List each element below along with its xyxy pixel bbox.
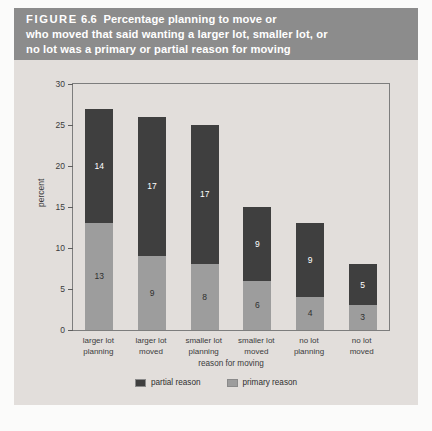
y-axis-tick-label: 20 [56, 161, 65, 171]
bar-value-label: 3 [360, 313, 365, 322]
bar-segment-primary-reason[interactable]: 9 [138, 256, 166, 330]
legend-swatch [135, 379, 146, 387]
figure-title-line-3: no lot was a primary or partial reason f… [26, 42, 408, 57]
figure-label: FIGURE [26, 13, 78, 25]
bar-segment-partial-reason[interactable]: 14 [85, 109, 113, 224]
bar-value-label: 6 [255, 301, 260, 310]
bar-value-label: 17 [147, 182, 156, 191]
plot-inner: 0510152025301413179178969453 [73, 84, 389, 330]
x-axis-category-line: moved [325, 347, 399, 358]
y-axis-tick [68, 248, 73, 249]
legend-swatch [227, 379, 238, 387]
bar-segment-primary-reason[interactable]: 3 [349, 305, 377, 330]
y-axis-tick-label: 0 [60, 325, 65, 335]
y-axis-tick [68, 289, 73, 290]
x-axis-category-line: no lot [325, 336, 399, 347]
figure-title-band: FIGURE 6.6 Percentage planning to move o… [14, 8, 418, 60]
legend-label: primary reason [243, 378, 298, 387]
figure-number: 6.6 [81, 13, 97, 25]
bar-segment-primary-reason[interactable]: 13 [85, 223, 113, 330]
bar-segment-partial-reason[interactable]: 17 [191, 125, 219, 264]
figure-root: FIGURE 6.6 Percentage planning to move o… [0, 0, 432, 431]
plot-frame: 0510152025301413179178969453 [72, 83, 390, 331]
bar-segment-primary-reason[interactable]: 4 [296, 297, 324, 330]
bar-stack[interactable]: 1413 [85, 109, 113, 330]
legend-item[interactable]: partial reason [135, 378, 201, 387]
y-axis-tick-label: 30 [56, 79, 65, 89]
bar-value-label: 14 [95, 162, 104, 171]
x-axis-category-label: no lotmoved [325, 336, 399, 357]
figure-title-line-1: FIGURE 6.6 Percentage planning to move o… [26, 12, 408, 27]
bar-stack[interactable]: 94 [296, 223, 324, 330]
y-axis-tick [68, 207, 73, 208]
bar-stack[interactable]: 96 [243, 207, 271, 330]
bar-value-label: 8 [202, 293, 207, 302]
bar-segment-primary-reason[interactable]: 8 [191, 264, 219, 330]
bar-stack[interactable]: 179 [138, 117, 166, 330]
legend-item[interactable]: primary reason [227, 378, 298, 387]
x-axis-title: reason for moving [72, 359, 390, 368]
legend-label: partial reason [151, 378, 201, 387]
bar-segment-partial-reason[interactable]: 5 [349, 264, 377, 305]
bar-value-label: 9 [308, 256, 313, 265]
y-axis-tick-label: 15 [56, 202, 65, 212]
y-axis-tick [68, 166, 73, 167]
bar-value-label: 4 [308, 309, 313, 318]
bar-stack[interactable]: 178 [191, 125, 219, 330]
y-axis-tick-label: 25 [56, 120, 65, 130]
y-axis-tick-label: 10 [56, 243, 65, 253]
bar-stack[interactable]: 53 [349, 264, 377, 330]
figure-title-line-2: who moved that said wanting a larger lot… [26, 27, 408, 42]
bar-segment-partial-reason[interactable]: 9 [243, 207, 271, 281]
bar-value-label: 5 [360, 281, 365, 290]
bar-segment-partial-reason[interactable]: 9 [296, 223, 324, 297]
bar-segment-primary-reason[interactable]: 6 [243, 281, 271, 330]
bar-segment-partial-reason[interactable]: 17 [138, 117, 166, 256]
bar-value-label: 9 [150, 289, 155, 298]
y-axis-tick [68, 84, 73, 85]
y-axis-tick-label: 5 [60, 284, 65, 294]
chart-legend: partial reasonprimary reason [14, 378, 418, 387]
y-axis-tick [68, 330, 73, 331]
y-axis-tick [68, 125, 73, 126]
bar-value-label: 9 [255, 240, 260, 249]
y-axis-title: percent [36, 179, 46, 207]
bar-value-label: 17 [200, 190, 209, 199]
figure-panel: FIGURE 6.6 Percentage planning to move o… [14, 8, 418, 405]
figure-title-text-1: Percentage planning to move or [103, 13, 276, 25]
chart-area: percent 0510152025301413179178969453 lar… [14, 60, 418, 405]
bar-value-label: 13 [95, 272, 104, 281]
